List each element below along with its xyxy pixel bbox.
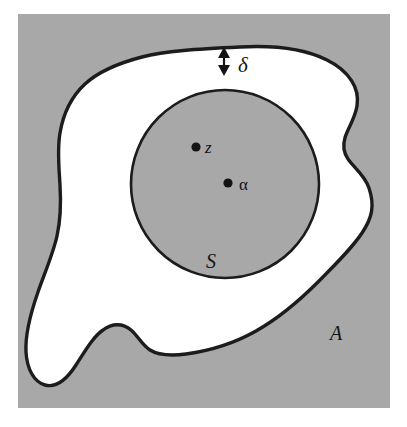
label-point-z: z <box>204 138 212 157</box>
set-diagram-svg: δ z α S A <box>0 0 407 427</box>
label-inner-disc-S: S <box>206 250 216 272</box>
label-delta: δ <box>238 53 249 77</box>
label-point-alpha: α <box>239 175 248 194</box>
label-outer-region-A: A <box>328 322 343 344</box>
point-alpha-dot <box>223 178 232 187</box>
point-z-dot <box>191 142 200 151</box>
figure-canvas: δ z α S A <box>0 0 407 427</box>
